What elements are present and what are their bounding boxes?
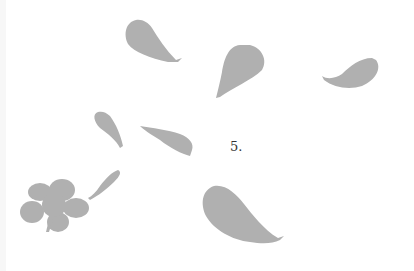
- petal-1: [126, 20, 182, 62]
- petal-6: [88, 170, 120, 200]
- petal-2: [216, 45, 264, 98]
- petal-3: [322, 58, 378, 88]
- petal-4: [94, 112, 123, 148]
- petal-7: [203, 186, 284, 244]
- flower: [20, 179, 89, 232]
- petals-illustration: [0, 0, 414, 271]
- petal-5: [140, 126, 193, 156]
- page-number-label: 5.: [230, 139, 242, 154]
